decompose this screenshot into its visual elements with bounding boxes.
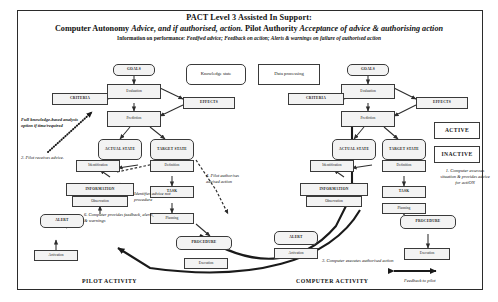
computer-procedure-label: PROCEDURE bbox=[415, 220, 440, 224]
pilot-planning-node[interactable]: Planning bbox=[150, 213, 194, 224]
pilot-effects-node[interactable]: EFFECTS bbox=[183, 97, 235, 109]
computer-target-state-node[interactable]: TARGET STATE bbox=[382, 139, 426, 160]
computer-planning-label: Planning bbox=[398, 207, 411, 211]
computer-planning-node[interactable]: Planning bbox=[382, 203, 426, 214]
active-label: ACTIVE bbox=[445, 128, 469, 134]
pilot-definition-node[interactable]: Definition bbox=[150, 160, 194, 172]
pilot-observation-node[interactable]: Observation bbox=[72, 196, 128, 207]
computer-execution-label: Execution bbox=[420, 252, 435, 256]
computer-activation-label: Activation bbox=[288, 252, 303, 256]
computer-effects-label: EFFECTS bbox=[433, 101, 451, 105]
computer-evaluation-node[interactable]: Evaluation bbox=[341, 84, 395, 99]
computer-criteria-node[interactable]: CRITERIA bbox=[288, 93, 344, 105]
computer-activity-label: COMPUTER ACTIVITY bbox=[296, 278, 368, 284]
computer-execution-node[interactable]: Execution bbox=[404, 248, 450, 260]
knowledge-state-node[interactable]: Knowledge state bbox=[186, 64, 246, 85]
computer-prediction-label: Prediction bbox=[361, 117, 376, 121]
computer-target-state-label: TARGET STATE bbox=[389, 148, 419, 152]
pilot-information-label: INFORMATION bbox=[85, 188, 114, 192]
header-line-3-detail: Feedfwd advice; Feedback on action; Aler… bbox=[186, 35, 380, 41]
pilot-actual-state-node[interactable]: ACTUAL STATE bbox=[98, 139, 142, 160]
header-line-2-pilot-authority: Pilot Authority bbox=[243, 24, 300, 33]
pilot-procedure-node[interactable]: PROCEDURE bbox=[176, 236, 232, 250]
pilot-activity-label: PILOT ACTIVITY bbox=[82, 278, 137, 284]
header-line-2: Computer Autonomy Advice, and if authori… bbox=[17, 24, 481, 33]
note-step-3: 3. Computer executes authorised action bbox=[322, 258, 400, 264]
header-line-1: PACT Level 3 Assisted In Support: bbox=[17, 13, 481, 22]
pilot-activation-node[interactable]: Activation bbox=[34, 250, 78, 261]
pilot-target-state-label: TARGET STATE bbox=[157, 148, 187, 152]
note-identifies: Identifies advice not procedure bbox=[134, 191, 178, 203]
computer-activation-node[interactable]: Activation bbox=[274, 248, 318, 259]
pilot-execution-node[interactable]: Execution bbox=[184, 258, 228, 269]
pilot-information-node[interactable]: INFORMATION bbox=[66, 183, 134, 196]
pilot-activation-label: Activation bbox=[48, 254, 63, 258]
computer-alert-label: ALERT bbox=[289, 236, 303, 240]
computer-goals-label: GOALS bbox=[361, 68, 375, 72]
pilot-actual-state-label: ACTUAL STATE bbox=[105, 148, 135, 152]
note-step-6: 6. Computer provides feedback, alerts, &… bbox=[84, 212, 154, 224]
pilot-prediction-label: Prediction bbox=[127, 117, 142, 121]
header-line-3: Information on performance: Feedfwd advi… bbox=[17, 35, 481, 41]
pilot-criteria-node[interactable]: CRITERIA bbox=[52, 93, 108, 105]
pilot-goals-node[interactable]: GOALS bbox=[113, 64, 155, 76]
pilot-evaluation-label: Evaluation bbox=[126, 90, 142, 94]
pilot-alert-node[interactable]: ALERT bbox=[40, 214, 84, 228]
data-processing-label: Data processing bbox=[274, 72, 303, 77]
pilot-procedure-label: PROCEDURE bbox=[191, 241, 216, 245]
computer-goals-node[interactable]: GOALS bbox=[347, 64, 389, 76]
computer-evaluation-label: Evaluation bbox=[360, 90, 376, 94]
computer-prediction-node[interactable]: Prediction bbox=[341, 111, 395, 127]
header-line-2-advice: Advice, and if authorised, action. bbox=[131, 24, 243, 33]
note-feedback: Feedback to pilot bbox=[404, 278, 466, 284]
computer-information-node[interactable]: INFORMATION bbox=[300, 183, 368, 196]
computer-procedure-node[interactable]: PROCEDURE bbox=[400, 215, 456, 229]
pilot-identification-label: Identification bbox=[88, 164, 107, 168]
note-step-2: 2. Pilot receives advice. bbox=[21, 155, 65, 161]
active-node[interactable]: ACTIVE bbox=[434, 122, 480, 139]
header-line-2-computer-autonomy: Computer Autonomy bbox=[55, 24, 131, 33]
computer-alert-node[interactable]: ALERT bbox=[274, 231, 318, 245]
computer-definition-node[interactable]: Definition bbox=[382, 160, 426, 172]
computer-observation-node[interactable]: Observation bbox=[306, 196, 362, 207]
pilot-criteria-label: CRITERIA bbox=[70, 97, 90, 101]
computer-definition-label: Definition bbox=[397, 164, 412, 168]
computer-actual-state-label: ACTUAL STATE bbox=[339, 148, 369, 152]
data-processing-node[interactable]: Data processing bbox=[258, 64, 320, 85]
computer-identification-label: Identification bbox=[322, 164, 341, 168]
computer-task-label: TASK bbox=[399, 190, 410, 194]
pilot-execution-label: Execution bbox=[199, 262, 214, 266]
pact-diagram-root: PACT Level 3 Assisted In Support: Comput… bbox=[0, 0, 498, 302]
knowledge-state-label: Knowledge state bbox=[201, 72, 232, 77]
pilot-prediction-node[interactable]: Prediction bbox=[107, 111, 161, 127]
header-line-3-label: Information on performance: bbox=[117, 35, 186, 41]
pilot-identification-node[interactable]: Identification bbox=[76, 160, 120, 172]
pilot-target-state-node[interactable]: TARGET STATE bbox=[150, 139, 194, 160]
header-line-2-acceptance: Acceptance of advice & authorising actio… bbox=[300, 24, 444, 33]
pilot-planning-label: Planning bbox=[166, 217, 179, 221]
pilot-evaluation-node[interactable]: Evaluation bbox=[107, 84, 161, 99]
diagram-header: PACT Level 3 Assisted In Support: Comput… bbox=[17, 13, 481, 41]
note-step-1: 1. Computer assesses situation & provide… bbox=[440, 168, 490, 185]
inactive-node[interactable]: INACTIVE bbox=[434, 146, 480, 163]
note-full-knowledge: Full knowledge-based analysis option if … bbox=[21, 117, 87, 129]
note-step-4: 4. Pilot authorises advised action bbox=[206, 173, 252, 185]
pilot-effects-label: EFFECTS bbox=[200, 101, 218, 105]
computer-criteria-label: CRITERIA bbox=[306, 97, 326, 101]
computer-effects-node[interactable]: EFFECTS bbox=[416, 97, 468, 109]
pilot-observation-label: Observation bbox=[91, 200, 109, 204]
pilot-definition-label: Definition bbox=[165, 164, 180, 168]
computer-actual-state-node[interactable]: ACTUAL STATE bbox=[332, 139, 376, 160]
computer-observation-label: Observation bbox=[325, 200, 343, 204]
pilot-goals-label: GOALS bbox=[127, 68, 141, 72]
pilot-alert-label: ALERT bbox=[55, 219, 69, 223]
inactive-label: INACTIVE bbox=[441, 152, 472, 158]
computer-task-node[interactable]: TASK bbox=[382, 186, 426, 198]
computer-information-label: INFORMATION bbox=[319, 188, 348, 192]
computer-identification-node[interactable]: Identification bbox=[310, 160, 354, 172]
